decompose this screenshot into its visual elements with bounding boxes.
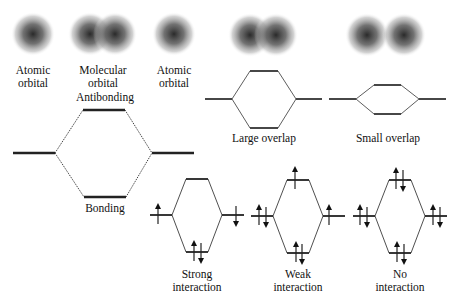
label-line: No: [363, 268, 437, 281]
no-interaction-diagram: [353, 170, 447, 262]
weak-interaction-diagram: [251, 169, 345, 262]
strong-interaction-label: Strong interaction: [160, 268, 234, 294]
label-line: interaction: [261, 281, 335, 294]
atomic-orbital-left-label: Atomic orbital: [3, 64, 63, 90]
large-overlap-orbital-icon: [228, 13, 298, 57]
main-mo-diagram: [13, 110, 194, 197]
small-overlap-orbital-icon: [345, 13, 426, 57]
label-line: orbital: [3, 77, 63, 90]
no-interaction-label: No interaction: [363, 268, 437, 294]
bonding-label: Bonding: [75, 202, 135, 215]
label-line: Atomic: [3, 64, 63, 77]
small-overlap-label: Small overlap: [348, 132, 428, 145]
label-line: orbital: [144, 77, 204, 90]
orbital-diagram-canvas: [0, 0, 457, 304]
atomic-orbital-left-icon: [11, 12, 55, 56]
strong-interaction-diagram: [150, 179, 244, 261]
small-overlap-diagram: [329, 85, 446, 114]
antibonding-label: Antibonding: [70, 91, 140, 104]
atomic-orbital-right-icon: [152, 12, 196, 56]
label-line: Weak: [261, 268, 335, 281]
weak-interaction-label: Weak interaction: [261, 268, 335, 294]
large-overlap-label: Large overlap: [224, 132, 304, 145]
label-line: interaction: [160, 281, 234, 294]
label-line: Strong: [160, 268, 234, 281]
label-line: Atomic: [144, 64, 204, 77]
large-overlap-diagram: [205, 71, 322, 128]
label-line: orbital: [72, 77, 134, 90]
atomic-orbital-right-label: Atomic orbital: [144, 64, 204, 90]
label-line: interaction: [363, 281, 437, 294]
molecular-orbital-icon: [68, 12, 137, 56]
molecular-orbital-label: Molecular orbital: [72, 64, 134, 90]
label-line: Molecular: [72, 64, 134, 77]
